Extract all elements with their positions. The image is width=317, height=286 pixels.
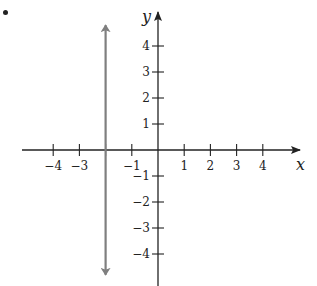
y-tick-label: 2 (142, 91, 150, 105)
y-tick-label: −4 (132, 247, 150, 261)
x-axis-label: x (296, 155, 305, 174)
coordinate-plane: −4−3−11234 4321−1−2−3−4 x y (0, 0, 317, 286)
y-tick-label: −2 (132, 195, 150, 209)
x-tick-label: 3 (233, 159, 241, 173)
x-tick-label: −4 (44, 159, 62, 173)
y-tick-label: 4 (142, 39, 150, 53)
y-tick-label: −3 (132, 221, 150, 235)
y-axis-label: y (141, 7, 152, 26)
x-tick-label: 2 (207, 159, 215, 173)
x-tick-label: 1 (180, 159, 188, 173)
x-tick-label: −3 (71, 159, 89, 173)
x-tick-labels: −4−3−11234 (44, 159, 267, 173)
x-tick-label: 4 (259, 159, 267, 173)
y-tick-label: 3 (142, 65, 150, 79)
y-tick-label: −1 (132, 169, 150, 183)
y-tick-label: 1 (142, 117, 150, 131)
